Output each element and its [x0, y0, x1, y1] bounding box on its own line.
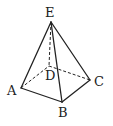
edge-EC: [51, 22, 90, 80]
solid-edges: [21, 22, 90, 102]
label-A: A: [6, 83, 17, 98]
pyramid-diagram: E A B C D: [0, 0, 113, 126]
vertex-labels: E A B C D: [6, 5, 104, 120]
edge-ED: [49, 22, 51, 66]
edge-AB: [21, 88, 62, 102]
label-D: D: [45, 68, 55, 83]
label-E: E: [45, 5, 55, 20]
edge-EB: [51, 22, 62, 102]
edge-BC: [62, 80, 90, 102]
label-C: C: [94, 74, 104, 89]
label-B: B: [58, 105, 68, 120]
